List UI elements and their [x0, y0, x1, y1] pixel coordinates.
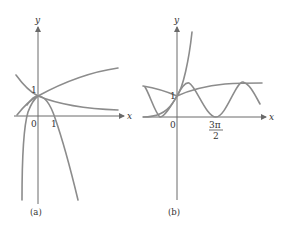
panel-a: y x 0 1 1 (a) [14, 15, 132, 217]
x-tick-numerator: 3π [209, 120, 221, 130]
panel-b: y x 0 1 3π 2 (b) [143, 15, 274, 217]
x-axis-label: x [269, 112, 274, 122]
y-axis-label: y [34, 15, 41, 25]
arctan-curve [143, 83, 262, 96]
x-axis-label: x [127, 111, 132, 121]
origin-label: 0 [31, 119, 37, 129]
caption-b: (b) [168, 207, 180, 217]
left-descending-curve [22, 96, 38, 200]
exponential-curve [143, 32, 192, 117]
function-graphs-figure: y x 0 1 1 (a) y x 0 1 3π 2 (b) [0, 0, 287, 230]
y-axis-label: y [173, 15, 180, 25]
caption-a: (a) [30, 207, 42, 217]
x-tick-label: 1 [51, 119, 57, 129]
parabola-curve [27, 96, 78, 200]
x-tick-denominator: 2 [213, 131, 219, 141]
origin-label: 0 [170, 120, 176, 130]
y-tick-label: 1 [170, 91, 176, 101]
y-tick-label: 1 [31, 85, 37, 95]
